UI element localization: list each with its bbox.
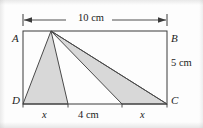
geometry-figure: A B C D 10 cm 5 cm x 4 cm x xyxy=(0,0,203,128)
apex-to-c-line xyxy=(51,31,167,104)
vertex-label-d: D xyxy=(12,95,20,106)
dimension-label-right-height: 5 cm xyxy=(171,58,192,69)
dimension-label-bottom-right-x: x xyxy=(140,110,145,121)
bottom-segment-ticks xyxy=(23,104,167,108)
dimension-label-top-width: 10 cm xyxy=(78,13,104,24)
dimension-label-bottom-middle: 4 cm xyxy=(78,110,99,121)
vertex-label-c: C xyxy=(171,95,178,106)
dimension-label-bottom-left-x: x xyxy=(42,110,47,121)
vertex-label-a: A xyxy=(12,33,19,44)
vertex-label-b: B xyxy=(171,33,178,44)
